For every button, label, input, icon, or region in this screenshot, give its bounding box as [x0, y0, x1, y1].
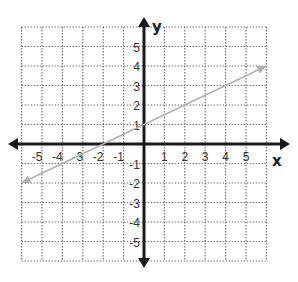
x-tick-label: 2: [181, 150, 188, 164]
y-tick-label: 3: [133, 80, 140, 94]
x-axis-right-arrow-icon: [280, 138, 290, 150]
y-tick-label: -1: [129, 158, 140, 172]
y-tick-label: -4: [129, 216, 140, 230]
x-tick-label: 4: [222, 150, 229, 164]
x-tick-label: 1: [161, 150, 168, 164]
y-axis-down-arrow-icon: [138, 258, 150, 268]
y-tick-label: -3: [129, 197, 140, 211]
coordinate-plane: -5-4-3-2-11234554321-1-2-3-4-5 x y: [0, 0, 298, 282]
y-axis-label: y: [152, 18, 162, 36]
y-tick-label: 1: [133, 119, 140, 133]
x-tick-label: -3: [72, 150, 83, 164]
y-tick-label: 4: [133, 60, 140, 74]
axes: [8, 17, 290, 268]
x-axis-left-arrow-icon: [8, 138, 18, 150]
x-tick-label: 3: [202, 150, 209, 164]
y-axis-up-arrow-icon: [138, 17, 150, 27]
y-tick-label: -5: [129, 236, 140, 250]
x-tick-label: -4: [52, 150, 63, 164]
x-axis-label: x: [272, 152, 282, 170]
x-tick-label: -2: [93, 150, 104, 164]
y-tick-label: 5: [133, 41, 140, 55]
x-tick-label: -1: [113, 150, 124, 164]
y-tick-label: -2: [129, 177, 140, 191]
x-tick-label: -5: [32, 150, 43, 164]
y-tick-label: 2: [133, 99, 140, 113]
x-tick-label: 5: [243, 150, 250, 164]
